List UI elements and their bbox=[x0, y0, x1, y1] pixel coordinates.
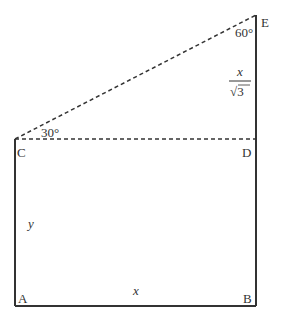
fraction-denominator: √3 bbox=[230, 84, 244, 99]
label-D: D bbox=[242, 145, 251, 160]
length-x-label: x bbox=[132, 283, 139, 298]
angle-C-label: 30° bbox=[41, 125, 59, 140]
angle-E-label: 60° bbox=[235, 25, 253, 40]
label-E: E bbox=[261, 15, 269, 30]
label-C: C bbox=[17, 145, 26, 160]
length-y-label: y bbox=[26, 216, 34, 231]
label-B: B bbox=[243, 291, 252, 306]
dashed-CE bbox=[15, 15, 256, 139]
label-A: A bbox=[18, 291, 28, 306]
geometry-diagram: E C D A B 30° 60° y x x √3 bbox=[0, 0, 283, 329]
fraction-numerator: x bbox=[236, 64, 243, 79]
